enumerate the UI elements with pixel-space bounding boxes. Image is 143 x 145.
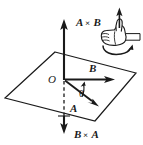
label-b-cross-a-operand2: A <box>91 128 99 140</box>
figure-canvas: A × B B × A B A O θ <box>0 0 143 145</box>
curl-rotation-arc <box>103 46 131 55</box>
hand-fist-outline <box>101 25 126 45</box>
label-origin: O <box>48 73 56 85</box>
label-a-cross-b-operand2: B <box>93 16 101 28</box>
cross-product-figure: A × B B × A B A O θ <box>0 0 143 145</box>
label-b-cross-a-operator: × <box>83 130 88 140</box>
angle-arc-arrowhead <box>81 82 86 87</box>
label-angle-theta: θ <box>79 88 84 99</box>
label-vector-a: A <box>69 102 77 114</box>
label-b-cross-a-operand1: B <box>73 128 81 140</box>
label-vector-b: B <box>88 62 96 74</box>
curl-rotation-arrowhead <box>127 45 134 52</box>
label-a-cross-b-operator: × <box>85 18 90 28</box>
right-hand-thumbs-up <box>101 19 140 45</box>
label-a-cross-b-operand1: A <box>75 16 83 28</box>
